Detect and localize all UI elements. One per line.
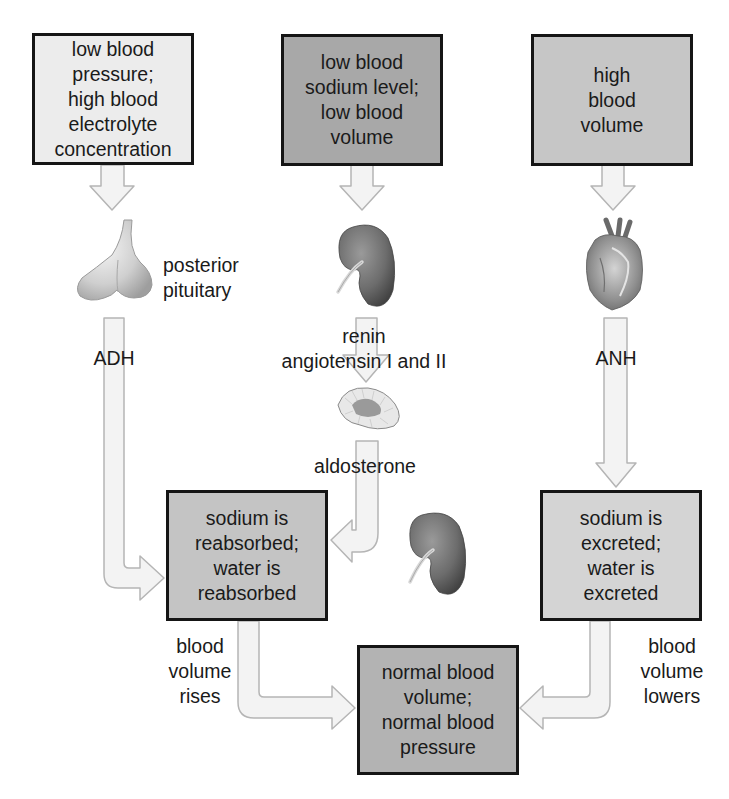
effect-box-reabsorbed: sodium is reabsorbed; water is reabsorbe…: [166, 490, 328, 621]
stimulus-box-low-pressure: low blood pressure; high blood electroly…: [32, 33, 194, 165]
hormone-label-renin-angiotensin: renin angiotensin I and II: [264, 324, 464, 374]
kidney-icon: [338, 225, 395, 306]
heart-icon: [586, 220, 642, 310]
stimulus-box-low-sodium: low blood sodium level; low blood volume: [281, 34, 443, 166]
kidney-icon: [410, 513, 466, 594]
outcome-label-volume-rises: blood volume rises: [160, 634, 240, 709]
hormone-label-aldosterone: aldosterone: [300, 454, 430, 479]
outcome-label-volume-lowers: blood volume lowers: [632, 634, 712, 709]
stimulus-box-high-volume: high blood volume: [531, 34, 693, 166]
outcome-box-normal: normal blood volume; normal blood pressu…: [357, 645, 519, 775]
posterior-pituitary-label: posterior pituitary: [163, 253, 239, 303]
hormone-label-adh: ADH: [90, 346, 138, 371]
hormone-label-anh: ANH: [592, 346, 640, 371]
adrenal-gland-icon: [338, 388, 399, 429]
effect-box-excreted: sodium is excreted; water is excreted: [540, 490, 702, 621]
pituitary-gland-icon: [77, 220, 152, 300]
